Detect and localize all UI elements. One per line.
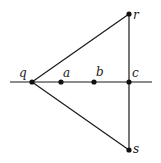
point-b [91,79,96,84]
label-c: c [132,66,139,80]
point-c [126,79,131,84]
segment-qs [32,82,129,150]
geometry-diagram: q a b c r s [0,0,161,163]
point-r [126,11,131,16]
segment-qr [32,14,129,82]
label-a: a [63,66,70,80]
label-r: r [133,8,140,22]
point-s [126,147,131,152]
label-q: q [19,66,27,80]
point-q [29,79,34,84]
label-b: b [96,65,104,79]
point-a [58,79,63,84]
label-s: s [133,142,139,156]
